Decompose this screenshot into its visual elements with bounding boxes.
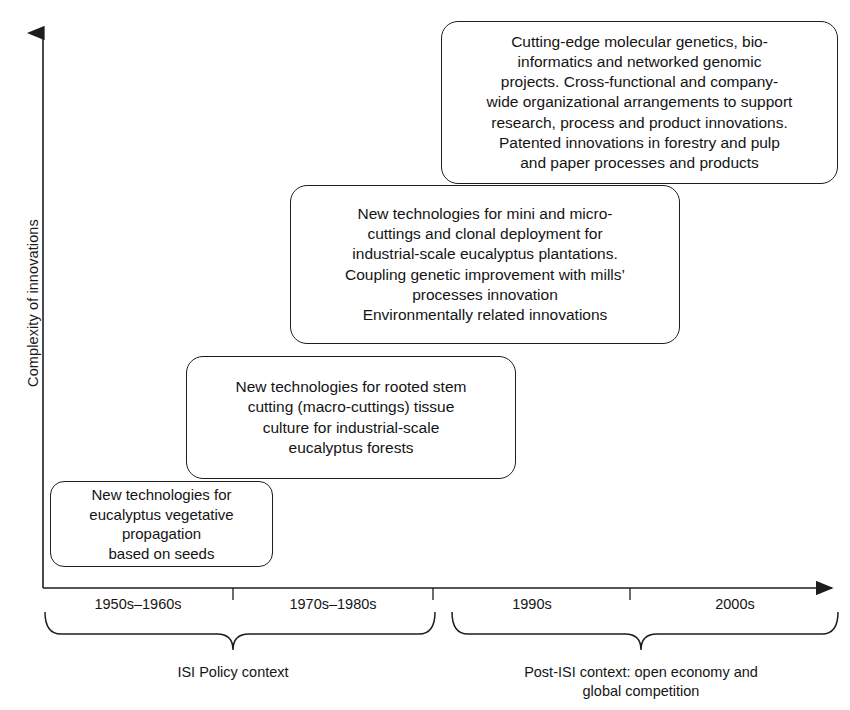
stage-3-text: New technologies for mini and micro-cutt…	[291, 204, 679, 325]
stage-3-line: Environmentally related innovations	[300, 305, 670, 325]
isi-policy-brace	[45, 612, 435, 650]
innovation-stage-box-4: Cutting-edge molecular genetics, bio-inf…	[441, 21, 838, 184]
stage-4-line: Patented innovations in forestry and pul…	[451, 133, 828, 153]
stage-1-line: based on seeds	[60, 544, 263, 564]
stage-3-line: cuttings and clonal deployment for	[300, 224, 670, 244]
stage-4-line: informatics and networked genomic	[451, 52, 828, 72]
post-isi-brace	[452, 612, 838, 650]
period-label-3: 1990s	[432, 596, 632, 612]
stage-3-line: industrial-scale eucalyptus plantations.	[300, 244, 670, 264]
stage-3-line: processes innovation	[300, 285, 670, 305]
stage-4-line: and paper processes and products	[451, 153, 828, 173]
stage-3-line: New technologies for mini and micro-	[300, 204, 670, 224]
stage-4-line: wide organizational arrangements to supp…	[451, 92, 828, 112]
stage-2-text: New technologies for rooted stemcutting …	[187, 377, 515, 458]
post-isi-bracket-label-line: global competition	[461, 682, 821, 701]
stage-2-line: cutting (macro-cuttings) tissue	[196, 397, 506, 417]
y-axis-title: Complexity of innovations	[25, 153, 41, 453]
stage-4-text: Cutting-edge molecular genetics, bio-inf…	[442, 32, 837, 173]
stage-1-line: New technologies for	[60, 485, 263, 505]
period-label-2: 1970s–1980s	[233, 596, 433, 612]
isi-policy-bracket-label-line: ISI Policy context	[53, 663, 413, 682]
stage-4-line: Cutting-edge molecular genetics, bio-	[451, 32, 828, 52]
stage-4-line: projects. Cross-functional and company-	[451, 72, 828, 92]
stage-3-line: Coupling genetic improvement with mills’	[300, 265, 670, 285]
period-label-1: 1950s–1960s	[38, 596, 238, 612]
stage-2-line: New technologies for rooted stem	[196, 377, 506, 397]
isi-policy-bracket-label: ISI Policy context	[53, 663, 413, 682]
stage-2-line: eucalyptus forests	[196, 438, 506, 458]
period-label-4: 2000s	[635, 596, 835, 612]
stage-1-line: propagation	[60, 524, 263, 544]
innovation-stage-box-3: New technologies for mini and micro-cutt…	[290, 185, 680, 344]
stage-1-line: eucalyptus vegetative	[60, 505, 263, 525]
stage-2-line: culture for industrial-scale	[196, 418, 506, 438]
innovation-stage-box-2: New technologies for rooted stemcutting …	[186, 356, 516, 479]
post-isi-bracket-label: Post-ISI context: open economy andglobal…	[461, 663, 821, 702]
post-isi-bracket-label-line: Post-ISI context: open economy and	[461, 663, 821, 682]
stage-4-line: research, process and product innovation…	[451, 113, 828, 133]
stage-1-text: New technologies foreucalyptus vegetativ…	[51, 485, 272, 563]
innovation-stage-box-1: New technologies foreucalyptus vegetativ…	[50, 481, 273, 567]
innovation-timeline-figure: Complexity of innovations New technologi…	[0, 0, 850, 710]
